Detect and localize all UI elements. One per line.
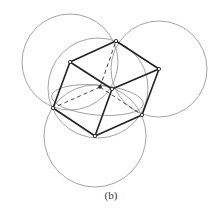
- vertex-hidden: [98, 85, 102, 89]
- hexagon-outline: [53, 41, 159, 136]
- figure-caption: (b): [0, 189, 222, 201]
- cube-diagram: [0, 0, 222, 208]
- vertex-left: [51, 106, 54, 109]
- vertex-right: [157, 67, 160, 70]
- vertex-upper-left: [68, 60, 71, 63]
- hidden-edges: [53, 41, 142, 115]
- hidden-edge-lower-right: [100, 87, 142, 115]
- vertex-center: [110, 87, 113, 90]
- vertex-top: [114, 39, 117, 42]
- vertex-bottom: [93, 134, 96, 137]
- visible-edges: [53, 41, 159, 136]
- vertex-lower-right: [140, 113, 143, 116]
